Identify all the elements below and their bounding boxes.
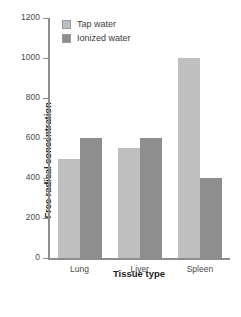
y-tick-label: 800 (26, 92, 40, 102)
y-tick-mark (43, 218, 48, 219)
plot-area: 020040060080010001200 LungLiverSpleen (48, 18, 230, 258)
bar (58, 159, 80, 258)
bar (140, 138, 162, 258)
y-tick-label: 0 (35, 252, 40, 262)
legend-swatch-icon (62, 20, 71, 29)
y-tick-mark (43, 258, 48, 259)
bar (80, 138, 102, 258)
bar-group (118, 18, 162, 258)
legend-label: Tap water (77, 19, 116, 29)
y-tick-mark (43, 58, 48, 59)
y-tick-label: 1200 (21, 12, 40, 22)
bars-container (50, 18, 231, 258)
y-tick-label: 400 (26, 172, 40, 182)
bar (200, 178, 222, 258)
legend: Tap water Ionized water (62, 19, 131, 47)
legend-swatch-icon (62, 34, 71, 43)
y-tick-label: 600 (26, 132, 40, 142)
y-tick-mark (43, 18, 48, 19)
bar-group (58, 18, 102, 258)
legend-item: Tap water (62, 19, 131, 29)
legend-item: Ionized water (62, 33, 131, 43)
y-tick-mark (43, 138, 48, 139)
bar-group (178, 18, 222, 258)
y-tick-mark (43, 178, 48, 179)
y-tick-label: 1000 (21, 52, 40, 62)
x-axis-title: Tissue type (48, 268, 230, 279)
bar (118, 148, 140, 258)
bar (178, 58, 200, 258)
bar-chart-figure: Free radical concentration 0200400600800… (0, 0, 241, 317)
legend-label: Ionized water (77, 33, 131, 43)
y-tick-label: 200 (26, 212, 40, 222)
x-axis-line (48, 258, 230, 260)
y-tick-mark (43, 98, 48, 99)
